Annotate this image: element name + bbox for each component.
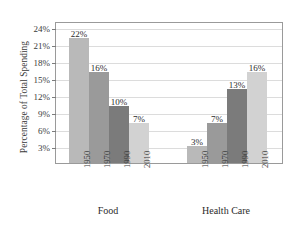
y-axis-tick-label: 21% <box>34 41 51 51</box>
bar-value-label: 22% <box>71 29 88 40</box>
x-axis-tick-label: 2010 <box>260 151 270 168</box>
y-axis-tick-label: 12% <box>34 92 51 102</box>
bar <box>247 72 267 163</box>
y-axis-tick-label: 9% <box>38 109 50 119</box>
y-axis-tick-label: 18% <box>34 58 51 68</box>
x-axis-tick-label: 1990 <box>240 151 250 168</box>
bar-chart-figure: Percentage of Total Spending 3%6%9%12%15… <box>0 0 293 230</box>
plot-area: 3%6%9%12%15%18%21%24% 22%16%10%7%3%7%13%… <box>55 22 283 164</box>
x-axis-tick-label: 1970 <box>102 151 112 168</box>
bar <box>89 72 109 163</box>
bar-value-label: 10% <box>111 97 128 108</box>
y-axis-title: Percentage of Total Spending <box>19 17 29 177</box>
y-axis-tick-label: 24% <box>34 24 51 34</box>
bar-value-label: 16% <box>249 63 266 74</box>
bars-layer: 22%16%10%7%3%7%13%16% <box>56 23 282 163</box>
x-axis-tick-label: 1950 <box>82 151 92 168</box>
bar <box>69 38 89 163</box>
bar-value-label: 7% <box>211 114 223 125</box>
y-axis-tick-label: 3% <box>38 143 50 153</box>
x-axis-group-label: Food <box>98 205 119 216</box>
x-axis-tick-label: 1950 <box>200 151 210 168</box>
bar-value-label: 16% <box>91 63 108 74</box>
x-axis-tick-label: 1990 <box>122 151 132 168</box>
y-axis-tick-label: 6% <box>38 126 50 136</box>
x-axis-tick-label: 2010 <box>142 151 152 168</box>
x-axis-group-label: Health Care <box>202 205 250 216</box>
bar-value-label: 3% <box>191 137 203 148</box>
x-axis-tick-label: 1970 <box>220 151 230 168</box>
bar-value-label: 7% <box>133 114 145 125</box>
y-axis-tick-label: 15% <box>34 75 51 85</box>
bar-value-label: 13% <box>229 80 246 91</box>
